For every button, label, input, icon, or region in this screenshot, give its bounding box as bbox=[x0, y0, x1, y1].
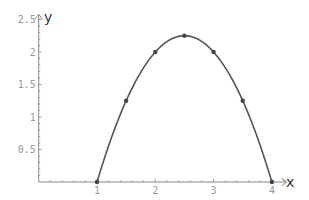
chart: 12340.511.522.5 y x bbox=[0, 0, 309, 200]
axes bbox=[35, 14, 287, 186]
x-axis-label: x bbox=[286, 174, 294, 190]
x-tick-label: 4 bbox=[269, 185, 275, 196]
curve-line bbox=[97, 36, 272, 182]
y-tick-label: 2 bbox=[30, 47, 36, 58]
data-point bbox=[211, 50, 215, 54]
data-point bbox=[95, 180, 99, 184]
x-tick-label: 1 bbox=[94, 185, 100, 196]
curve bbox=[97, 36, 272, 182]
y-axis-label: y bbox=[44, 9, 52, 25]
data-markers bbox=[95, 34, 274, 185]
y-tick-label: 2.5 bbox=[18, 14, 36, 25]
data-point bbox=[270, 180, 274, 184]
data-point bbox=[241, 99, 245, 103]
x-tick-label: 2 bbox=[152, 185, 158, 196]
y-tick-label: 1 bbox=[30, 112, 36, 123]
x-tick-label: 3 bbox=[211, 185, 217, 196]
y-tick-label: 1.5 bbox=[18, 79, 36, 90]
y-tick-label: 0.5 bbox=[18, 144, 36, 155]
data-point bbox=[153, 50, 157, 54]
ticks: 12340.511.522.5 bbox=[18, 14, 284, 196]
data-point bbox=[124, 99, 128, 103]
data-point bbox=[182, 34, 186, 38]
